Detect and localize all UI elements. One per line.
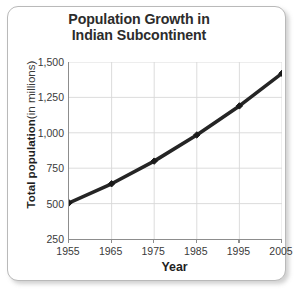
x-tick-mark-1955 [68, 239, 69, 243]
y-tick-label-1000: 1,000 [30, 127, 64, 138]
population-line [69, 73, 282, 203]
x-tick-mark-1965 [111, 239, 112, 243]
y-tick-label-250: 250 [30, 234, 64, 245]
plot-svg [69, 62, 282, 239]
x-tick-mark-1995 [238, 239, 239, 243]
chart-title-line-2: Indian Subcontinent [14, 27, 264, 43]
x-axis-tick-labels: 195519651975198519952005 [48, 245, 294, 259]
chart-title-line-1: Population Growth in [14, 11, 264, 27]
x-tick-mark-1975 [153, 239, 154, 243]
chart-figure: Population Growth in Indian Subcontinent… [0, 0, 298, 295]
x-tick-label-1975: 1975 [133, 245, 173, 258]
horizontal-gridlines [69, 62, 282, 204]
plot-area [68, 62, 282, 240]
x-axis-title: Year [68, 260, 281, 274]
x-axis-tick-marks [68, 239, 281, 244]
y-tick-label-750: 750 [30, 163, 64, 174]
x-tick-label-1985: 1985 [176, 245, 216, 258]
y-tick-label-1500: 1,500 [30, 57, 64, 68]
y-tick-label-500: 500 [30, 198, 64, 209]
x-tick-label-1965: 1965 [91, 245, 131, 258]
y-axis-tick-labels: 1,5001,2501,000750500250 [30, 62, 64, 239]
x-tick-label-1995: 1995 [218, 245, 258, 258]
x-tick-label-1955: 1955 [48, 245, 88, 258]
x-tick-mark-2005 [281, 239, 282, 243]
vertical-gridlines [112, 62, 282, 239]
chart-title: Population Growth in Indian Subcontinent [14, 11, 264, 43]
y-tick-label-1250: 1,250 [30, 92, 64, 103]
x-tick-label-2005: 2005 [261, 245, 298, 258]
population-markers [69, 70, 282, 206]
x-tick-mark-1985 [196, 239, 197, 243]
